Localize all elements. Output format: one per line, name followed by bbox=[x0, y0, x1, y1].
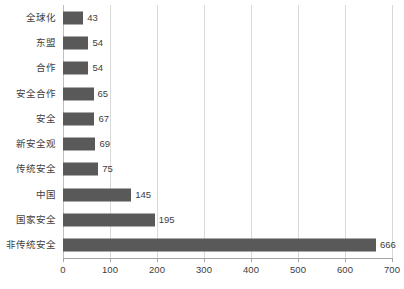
value-label: 145 bbox=[135, 190, 151, 200]
bar-row: 新安全观 69 bbox=[0, 132, 404, 157]
bar bbox=[63, 214, 155, 227]
bar-row: 东盟 54 bbox=[0, 30, 404, 55]
x-tick-label: 300 bbox=[196, 265, 212, 275]
bar-row: 安全 67 bbox=[0, 106, 404, 131]
tick-mark bbox=[345, 258, 346, 262]
x-axis-line bbox=[63, 258, 392, 259]
value-label: 75 bbox=[102, 165, 113, 175]
category-label: 东盟 bbox=[36, 38, 56, 48]
bar bbox=[63, 112, 94, 125]
value-label: 54 bbox=[92, 38, 103, 48]
category-label: 中国 bbox=[36, 190, 56, 200]
bar bbox=[63, 62, 88, 75]
value-label: 666 bbox=[380, 241, 396, 251]
bar-chart: 全球化 43 东盟 54 合作 54 安全合作 65 安全 67 新安全观 69 bbox=[0, 0, 404, 289]
bar bbox=[63, 239, 376, 252]
bar-row: 全球化 43 bbox=[0, 5, 404, 30]
bar bbox=[63, 36, 88, 49]
x-tick-label: 100 bbox=[102, 265, 118, 275]
bar bbox=[63, 138, 95, 151]
x-tick-label: 0 bbox=[60, 265, 65, 275]
bar-row: 国家安全 195 bbox=[0, 207, 404, 232]
x-tick-label: 200 bbox=[149, 265, 165, 275]
category-label: 安全合作 bbox=[16, 89, 56, 99]
value-label: 195 bbox=[159, 215, 175, 225]
value-label: 43 bbox=[87, 13, 98, 23]
bar bbox=[63, 87, 94, 100]
tick-mark bbox=[204, 258, 205, 262]
bar-row: 中国 145 bbox=[0, 182, 404, 207]
category-label: 传统安全 bbox=[16, 165, 56, 175]
bar-rows: 全球化 43 东盟 54 合作 54 安全合作 65 安全 67 新安全观 69 bbox=[0, 0, 404, 289]
tick-mark bbox=[392, 258, 393, 262]
value-label: 67 bbox=[98, 114, 109, 124]
bar bbox=[63, 11, 83, 24]
tick-mark bbox=[157, 258, 158, 262]
value-label: 54 bbox=[92, 63, 103, 73]
tick-mark bbox=[298, 258, 299, 262]
value-label: 65 bbox=[98, 89, 109, 99]
category-label: 全球化 bbox=[26, 13, 56, 23]
category-label: 国家安全 bbox=[16, 215, 56, 225]
bar-row: 合作 54 bbox=[0, 56, 404, 81]
bar bbox=[63, 163, 98, 176]
category-label: 新安全观 bbox=[16, 139, 56, 149]
x-tick-label: 700 bbox=[384, 265, 400, 275]
x-tick-label: 500 bbox=[290, 265, 306, 275]
tick-mark bbox=[251, 258, 252, 262]
tick-mark bbox=[63, 258, 64, 262]
bar-row: 传统安全 75 bbox=[0, 157, 404, 182]
category-label: 合作 bbox=[36, 63, 56, 73]
x-tick-label: 600 bbox=[337, 265, 353, 275]
x-tick-label: 400 bbox=[243, 265, 259, 275]
bar-row: 安全合作 65 bbox=[0, 81, 404, 106]
tick-mark bbox=[110, 258, 111, 262]
category-label: 安全 bbox=[36, 114, 56, 124]
category-label: 非传统安全 bbox=[6, 241, 56, 251]
bar-row: 非传统安全 666 bbox=[0, 233, 404, 258]
bar bbox=[63, 188, 131, 201]
value-label: 69 bbox=[99, 139, 110, 149]
